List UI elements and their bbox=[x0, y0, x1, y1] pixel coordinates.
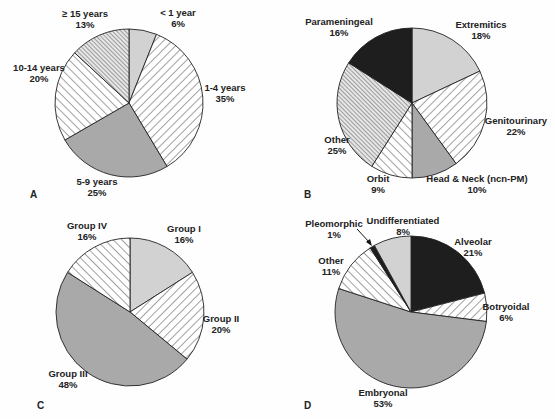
slice-percent: 25% bbox=[87, 187, 107, 198]
slice-percent: 6% bbox=[499, 312, 513, 323]
slice-label: Group I bbox=[167, 223, 201, 234]
slice-label: < 1 year bbox=[160, 7, 196, 18]
panel-letter-c: C bbox=[37, 400, 44, 411]
slice-percent: 11% bbox=[322, 266, 341, 277]
slice-label: Parameningeal bbox=[305, 16, 373, 27]
slice-label: Head & Neck (ncn-PM) bbox=[426, 173, 527, 184]
pie-charts: < 1 year6%1-4 years35%5-9 years25%10-14 … bbox=[13, 7, 548, 409]
slice-label: Group IV bbox=[67, 220, 108, 231]
slice-percent: 16% bbox=[174, 234, 194, 245]
slice-percent: 10% bbox=[467, 184, 487, 195]
slice-label: 10-14 years bbox=[13, 62, 65, 73]
pie-chart-figure: < 1 year6%1-4 years35%5-9 years25%10-14 … bbox=[0, 0, 555, 419]
pleomorphic-arrow-icon bbox=[357, 229, 372, 246]
slice-label: 5-9 years bbox=[76, 176, 117, 187]
slice-percent: 20% bbox=[29, 73, 49, 84]
slice-percent: 16% bbox=[77, 231, 97, 242]
slice-label: Genitourinary bbox=[485, 115, 548, 126]
slice-percent: 6% bbox=[171, 18, 185, 29]
slice-label: Pleomorphic bbox=[305, 218, 363, 229]
pie-chart-d: Alveolar21%Botryoidal6%Embryonal53%Other… bbox=[305, 215, 529, 409]
slice-percent: 53% bbox=[373, 398, 393, 409]
slice-percent: 20% bbox=[211, 324, 231, 335]
slice-label: Alveolar bbox=[454, 236, 492, 247]
slice-label: Botryoidal bbox=[483, 301, 530, 312]
pie-chart-a: < 1 year6%1-4 years35%5-9 years25%10-14 … bbox=[13, 7, 245, 198]
slice-percent: 21% bbox=[463, 247, 483, 258]
slice-percent: 18% bbox=[471, 30, 491, 41]
slice-percent: 16% bbox=[329, 27, 349, 38]
pie-chart-b: Extremitics18%Genitourinary22%Head & Nec… bbox=[305, 16, 548, 195]
slice-label: Extremitics bbox=[455, 19, 506, 30]
slice-label: Other bbox=[318, 255, 344, 266]
slice-label: Undifferentiated bbox=[367, 215, 440, 226]
slice-label: Embryonal bbox=[358, 387, 407, 398]
slice-label: Group III bbox=[48, 368, 87, 379]
slice-label: Group II bbox=[203, 313, 239, 324]
panel-letter-b: B bbox=[304, 189, 311, 200]
panel-letter-d: D bbox=[304, 400, 311, 411]
slice-percent: 9% bbox=[371, 184, 385, 195]
slice-percent: 1% bbox=[327, 229, 341, 240]
slice-label: 1-4 years bbox=[204, 82, 245, 93]
panel-letter-a: A bbox=[30, 189, 37, 200]
slice-percent: 8% bbox=[396, 226, 410, 237]
slice-label: Orbit bbox=[367, 173, 391, 184]
slice-label: ≥ 15 years bbox=[62, 8, 108, 19]
slice-percent: 22% bbox=[506, 126, 526, 137]
slice-percent: 48% bbox=[58, 379, 78, 390]
slice-percent: 35% bbox=[215, 93, 235, 104]
slice-percent: 25% bbox=[327, 145, 347, 156]
slice-label: Other bbox=[324, 134, 350, 145]
slice-percent: 13% bbox=[75, 19, 95, 30]
pie-chart-c: Group I16%Group II20%Group III48%Group I… bbox=[48, 220, 239, 390]
